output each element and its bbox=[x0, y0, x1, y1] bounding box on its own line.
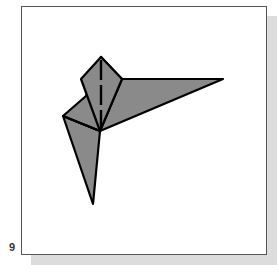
origami-diagram bbox=[0, 0, 279, 277]
step-number: 9 bbox=[9, 241, 15, 253]
